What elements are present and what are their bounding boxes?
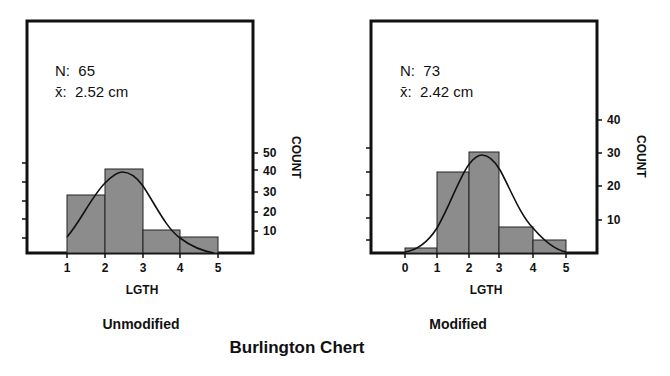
left-ylabel: COUNT <box>289 136 303 179</box>
right-bar-3-4 <box>499 227 533 253</box>
right-xlabel: LGTH <box>470 283 503 297</box>
left-xlabel: LGTH <box>126 283 159 297</box>
right-x-axis: 0 1 2 3 4 5 LGTH <box>402 253 570 297</box>
right-ytick-30: 30 <box>607 146 621 160</box>
left-bar-1-2 <box>67 195 105 253</box>
left-ytick-30: 30 <box>263 185 277 199</box>
figure: 50 40 30 20 10 COUNT 1 2 3 4 5 LGTH N: 6… <box>0 0 670 376</box>
right-ytick-20: 20 <box>607 179 621 193</box>
left-xtick-2: 2 <box>102 261 109 275</box>
figure-title: Burlington Chert <box>229 338 364 357</box>
right-ytick-10: 10 <box>607 213 621 227</box>
left-x-axis: 1 2 3 4 5 LGTH <box>64 253 222 297</box>
left-ytick-10: 10 <box>263 224 277 238</box>
right-xtick-3: 3 <box>496 261 503 275</box>
right-mean-stat: x̄: 2.42 cm <box>400 83 473 100</box>
right-xtick-0: 0 <box>402 261 409 275</box>
right-xtick-1: 1 <box>434 261 441 275</box>
left-xtick-4: 4 <box>177 261 184 275</box>
right-panel-label: Modified <box>429 316 487 332</box>
right-xtick-2: 2 <box>466 261 473 275</box>
right-count-axis: 40 30 20 10 COUNT <box>597 113 648 227</box>
left-xtick-3: 3 <box>140 261 147 275</box>
left-bar-4-5 <box>180 237 218 253</box>
left-xtick-1: 1 <box>64 261 71 275</box>
left-count-axis: 50 40 30 20 10 COUNT <box>253 136 303 238</box>
right-xtick-4: 4 <box>530 261 537 275</box>
left-histogram: 50 40 30 20 10 COUNT 1 2 3 4 5 LGTH N: 6… <box>22 21 303 332</box>
right-bar-1-2 <box>437 172 469 253</box>
right-histogram: 40 30 20 10 COUNT 0 1 2 3 4 5 LGTH N: 73… <box>366 21 648 332</box>
left-ytick-50: 50 <box>263 146 277 160</box>
right-ytick-40: 40 <box>607 113 621 127</box>
right-ylabel: COUNT <box>634 135 648 178</box>
left-bar-2-3 <box>105 169 143 253</box>
right-xtick-5: 5 <box>563 261 570 275</box>
left-ytick-20: 20 <box>263 205 277 219</box>
left-panel-label: Unmodified <box>103 316 180 332</box>
left-n-stat: N: 65 <box>55 62 95 79</box>
left-xtick-5: 5 <box>215 261 222 275</box>
right-n-stat: N: 73 <box>400 62 440 79</box>
right-bar-2-3 <box>469 152 499 253</box>
left-ytick-40: 40 <box>263 164 277 178</box>
left-mean-stat: x̄: 2.52 cm <box>55 83 128 100</box>
